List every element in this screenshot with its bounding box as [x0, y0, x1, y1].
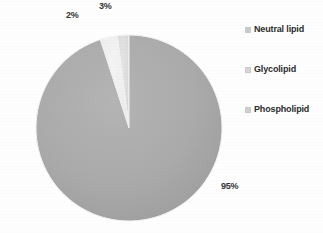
- pie-chart-figure: 2% 3% 95% Neutral lipid Glycolipid Phosp…: [0, 0, 323, 233]
- chart-legend: Neutral lipid Glycolipid Phospholipid: [245, 24, 323, 144]
- legend-label-glycolipid: Glycolipid: [254, 64, 296, 74]
- slice-label-phospholipid: 95%: [221, 181, 238, 191]
- legend-item-phospholipid[interactable]: Phospholipid: [245, 104, 323, 114]
- legend-label-phospholipid: Phospholipid: [254, 104, 309, 114]
- pie-svg: [34, 33, 224, 223]
- legend-swatch-icon: [245, 27, 251, 33]
- legend-label-neutral-lipid: Neutral lipid: [254, 24, 304, 34]
- pie-slices-group: [36, 35, 222, 221]
- legend-swatch-icon: [245, 67, 251, 73]
- legend-item-glycolipid[interactable]: Glycolipid: [245, 64, 323, 74]
- legend-swatch-icon: [245, 107, 251, 113]
- legend-item-neutral-lipid[interactable]: Neutral lipid: [245, 24, 323, 34]
- slice-label-neutral-lipid: 2%: [66, 10, 79, 20]
- slice-label-glycolipid: 3%: [99, 1, 112, 11]
- pie-chart-plot-area: [34, 33, 224, 223]
- pie-slice-phospholipid[interactable]: [36, 35, 222, 221]
